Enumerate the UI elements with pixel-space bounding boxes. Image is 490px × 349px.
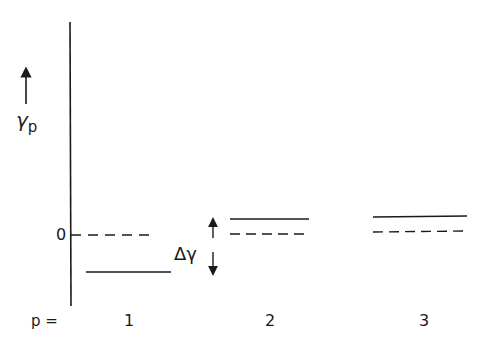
y-axis-line bbox=[70, 22, 71, 306]
p-equals-label: p = bbox=[31, 314, 58, 329]
p-category-1: 1 bbox=[124, 313, 134, 329]
y-axis-label: γp bbox=[16, 110, 37, 130]
p-category-2: 2 bbox=[265, 313, 275, 329]
zero-tick-label: 0 bbox=[56, 227, 66, 243]
diagram-canvas bbox=[0, 0, 490, 349]
p3-level-line bbox=[373, 216, 467, 217]
p3-zero-dashed-line bbox=[373, 231, 468, 232]
delta-gamma-label: Δγ bbox=[174, 245, 197, 263]
y-axis-label-subscript: p bbox=[28, 118, 38, 136]
y-axis-label-symbol: γ bbox=[16, 108, 28, 132]
p-category-3: 3 bbox=[419, 313, 429, 329]
